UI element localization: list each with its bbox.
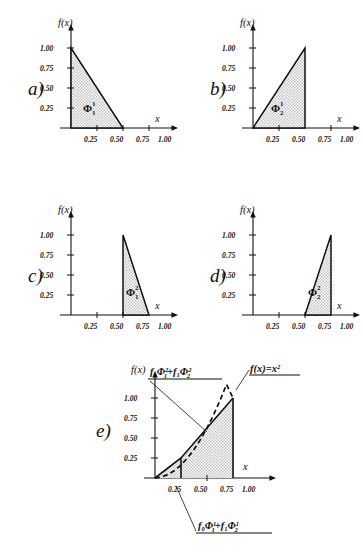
x-ticklabel-b-2: 0.50 <box>292 135 305 144</box>
figure-canvas: a) f(x) x 1.00 0.75 0.50 0.25 0.25 0.50 … <box>0 0 363 555</box>
y-ticklabel-d-2: 0.75 <box>222 251 235 260</box>
basis-label-c-sub: 1 <box>135 293 139 301</box>
x-ticklabel-c-1: 0.25 <box>84 322 97 331</box>
y-ticklabel-d-1: 1.00 <box>222 231 235 240</box>
basis-label-b-sub: 2 <box>280 109 284 117</box>
y-ticklabel-c-1: 1.00 <box>40 231 53 240</box>
basis-label-d-sub: 2 <box>317 293 321 301</box>
x-ticklabel-d-1: 0.25 <box>266 322 279 331</box>
x-ticklabel-e-2: 0.50 <box>194 485 207 494</box>
y-ticklabel-a-2: 0.75 <box>40 64 53 73</box>
panel-a: a) f(x) x 1.00 0.75 0.50 0.25 0.25 0.50 … <box>28 17 172 144</box>
annotation-curve-text: f(x)=x2 <box>250 363 281 375</box>
y-ticklabel-e-3: 0.50 <box>124 434 137 443</box>
x-ticklabel-e-1: 0.25 <box>168 485 181 494</box>
x-axis-label-d: x <box>336 300 342 311</box>
x-ticklabel-e-3: 0.75 <box>220 485 233 494</box>
x-ticklabel-c-4: 1.00 <box>158 322 171 331</box>
annotation-upper-text: f1Φ21+f1Φ22 <box>150 366 192 379</box>
basis-triangle-d <box>305 235 331 315</box>
basis-triangle-c <box>123 235 149 315</box>
annotation-lower-text: f0Φ11+f1Φ12 <box>198 520 239 533</box>
basis-label-a-sup: 1 <box>92 100 96 108</box>
x-ticklabel-a-3: 0.75 <box>136 135 149 144</box>
y-ticklabel-b-4: 0.25 <box>222 104 235 113</box>
y-ticklabel-a-3: 0.50 <box>40 84 53 93</box>
x-ticklabel-c-3: 0.75 <box>136 322 149 331</box>
basis-label-d-sup: 2 <box>317 284 321 292</box>
x-ticklabel-b-1: 0.25 <box>266 135 279 144</box>
panel-d: d) f(x) x 1.00 0.75 0.50 0.25 0.25 0.50 … <box>210 204 354 331</box>
annotation-curve-leader <box>236 370 249 390</box>
annotation-curve: f(x)=x2 <box>236 363 300 390</box>
x-ticklabel-b-4: 1.00 <box>340 135 353 144</box>
y-axis-label-d: f(x) <box>240 204 255 216</box>
x-ticklabel-e-4: 1.00 <box>242 485 255 494</box>
basis-label-b-sup: 1 <box>280 100 284 108</box>
y-ticklabel-e-1: 1.00 <box>124 394 137 403</box>
x-axis-label-c: x <box>154 300 160 311</box>
basis-label-d: Φ <box>308 286 317 298</box>
basis-label-c: Φ <box>126 286 135 298</box>
basis-label-a: Φ <box>83 102 92 114</box>
y-axis-label-b: f(x) <box>240 17 255 29</box>
y-axis-label-a: f(x) <box>58 17 73 29</box>
panel-letter-e: e) <box>96 420 111 442</box>
basis-triangle-a <box>71 48 123 128</box>
y-ticklabel-c-2: 0.75 <box>40 251 53 260</box>
panel-b: b) f(x) x 1.00 0.75 0.50 0.25 0.25 0.50 … <box>210 17 354 144</box>
y-ticklabel-b-1: 1.00 <box>222 44 235 53</box>
x-axis-label-b: x <box>336 113 342 124</box>
y-ticklabel-e-4: 0.25 <box>124 454 137 463</box>
x-ticklabel-d-2: 0.50 <box>292 322 305 331</box>
basis-label-a-sub: 1 <box>92 109 96 117</box>
x-ticklabel-a-4: 1.00 <box>158 135 171 144</box>
basis-label-b: Φ <box>271 102 280 114</box>
panel-e: e) f(x) x 1.00 0.75 0.50 0.25 0.25 0.50 … <box>96 363 300 533</box>
y-axis-label-e: f(x) <box>131 364 146 376</box>
x-ticklabel-b-3: 0.75 <box>318 135 331 144</box>
x-ticklabel-d-4: 1.00 <box>340 322 353 331</box>
y-ticklabel-b-2: 0.75 <box>222 64 235 73</box>
x-ticklabel-d-3: 0.75 <box>318 322 331 331</box>
approx-area-element-2 <box>181 398 233 478</box>
y-ticklabel-d-4: 0.25 <box>222 291 235 300</box>
y-ticklabel-d-3: 0.50 <box>222 271 235 280</box>
y-ticklabel-a-1: 1.00 <box>40 44 53 53</box>
basis-triangle-b <box>253 48 305 128</box>
annotation-lower-leader <box>176 486 196 531</box>
y-ticklabel-e-2: 0.75 <box>124 414 137 423</box>
y-ticklabel-c-3: 0.50 <box>40 271 53 280</box>
annotation-upper-leader <box>150 381 207 432</box>
y-axis-label-c: f(x) <box>58 204 73 216</box>
x-ticklabel-c-2: 0.50 <box>110 322 123 331</box>
y-ticklabel-a-4: 0.25 <box>40 104 53 113</box>
x-ticklabel-a-1: 0.25 <box>84 135 97 144</box>
panel-c: c) f(x) x 1.00 0.75 0.50 0.25 0.25 0.50 … <box>28 204 172 331</box>
x-axis-label-e: x <box>242 461 248 472</box>
y-ticklabel-b-3: 0.50 <box>222 84 235 93</box>
basis-label-c-sup: 2 <box>135 284 139 292</box>
x-axis-label-a: x <box>154 113 160 124</box>
y-ticklabel-c-4: 0.25 <box>40 291 53 300</box>
x-ticklabel-a-2: 0.50 <box>110 135 123 144</box>
